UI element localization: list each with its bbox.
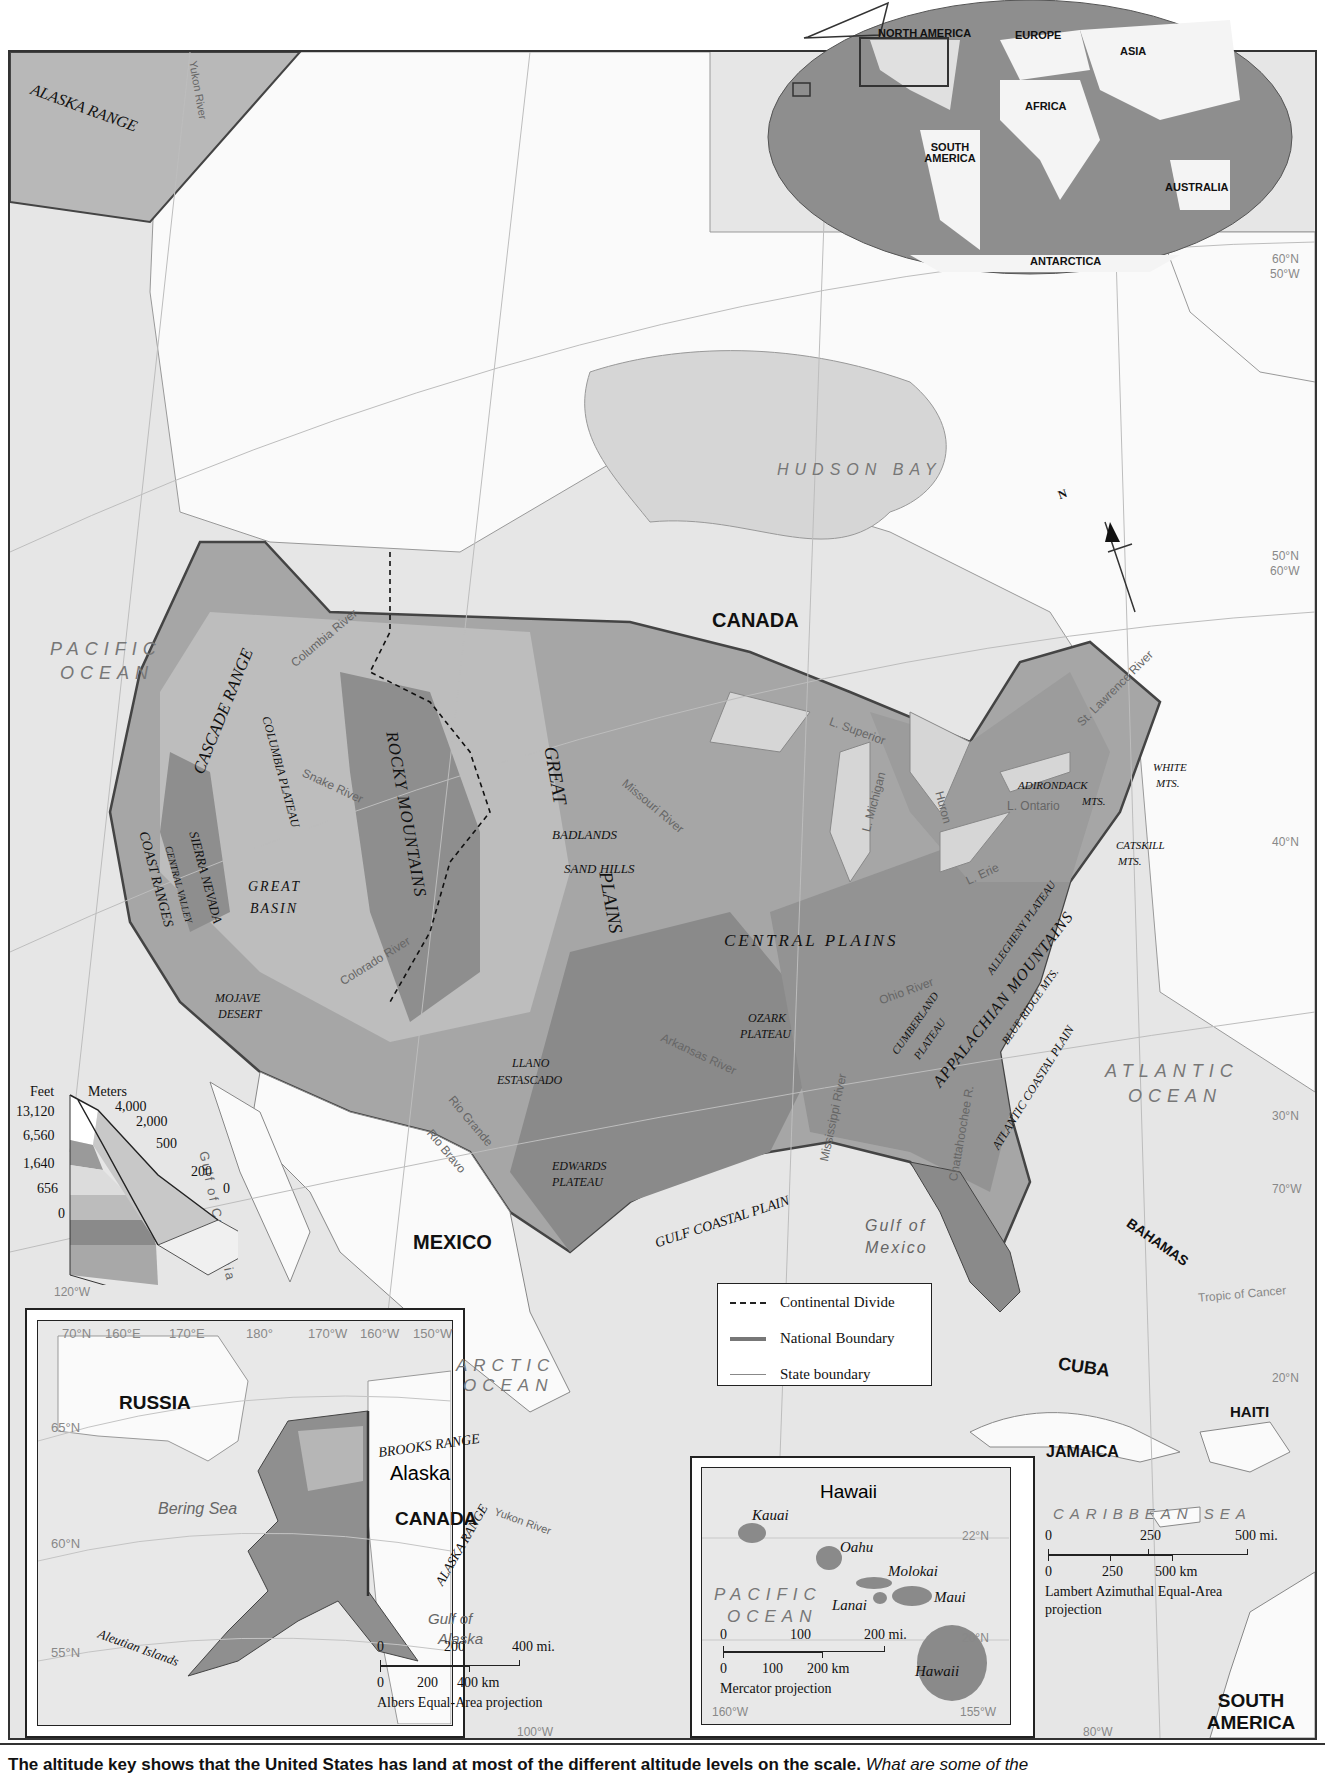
key-meters-value: 500 xyxy=(156,1137,177,1151)
grid-label: 40°N xyxy=(1272,836,1299,848)
grid-label: 60°N xyxy=(1272,253,1299,265)
dashed-line-icon xyxy=(730,1302,766,1304)
ocean-label-pacific: OCEAN xyxy=(60,664,154,682)
key-meters-value: 0 xyxy=(223,1182,230,1196)
feature-label: WHITE xyxy=(1153,762,1187,773)
continent-label: ANTARCTICA xyxy=(1030,256,1101,267)
legend-item-state-boundary: State boundary xyxy=(730,1366,870,1383)
feature-label: CENTRAL PLAINS xyxy=(724,932,898,949)
feature-label: MTS. xyxy=(1082,796,1106,807)
grid-label: 60°W xyxy=(1270,565,1299,577)
feature-label: BASIN xyxy=(250,902,298,916)
continent-label: AUSTRALIA xyxy=(1165,182,1229,193)
ocean-label-pacific: OCEAN xyxy=(727,1608,817,1625)
key-feet-value: 0 xyxy=(58,1207,65,1221)
inset-title-hawaii: Hawaii xyxy=(820,1482,877,1501)
grid-label: 20°N xyxy=(1272,1372,1299,1384)
ocean-label-arctic: OCEAN xyxy=(463,1377,553,1394)
feature-label: EDWARDS xyxy=(552,1160,606,1172)
inset-title-alaska: Alaska xyxy=(390,1463,450,1483)
country-label-mexico: MEXICO xyxy=(413,1232,492,1252)
ocean-label-arctic: ARCTIC xyxy=(456,1357,555,1374)
elevation-key: Feet Meters 13,120 6,560 1,640 656 0 4,0… xyxy=(8,1085,238,1285)
island-label: Lanai xyxy=(832,1598,867,1613)
grid-label: 50°W xyxy=(1270,268,1299,280)
feature-label: GREAT xyxy=(248,880,301,894)
island-label: Molokai xyxy=(888,1564,938,1579)
grid-label: 30°N xyxy=(1272,1110,1299,1122)
key-feet-value: 1,640 xyxy=(23,1157,55,1171)
feature-label: ESTASCADO xyxy=(497,1074,562,1086)
country-label-canada: CANADA xyxy=(712,610,799,630)
continent-label: EUROPE xyxy=(1015,30,1061,41)
key-feet-value: 656 xyxy=(37,1182,58,1196)
country-label-haiti: HAITI xyxy=(1230,1404,1269,1419)
water-label-gulf-of-mexico: Mexico xyxy=(865,1240,928,1256)
grid-label: 80°W xyxy=(1083,1726,1112,1738)
grid-label: 50°N xyxy=(1272,550,1299,562)
caption-question: What are some of the xyxy=(866,1755,1029,1774)
feature-label: DESERT xyxy=(218,1008,261,1020)
island-label: Oahu xyxy=(840,1540,873,1555)
feature-label: BADLANDS xyxy=(552,828,617,841)
physical-map: NORTH AMERICA EUROPE ASIA AFRICA SOUTH A… xyxy=(0,0,1325,1783)
feature-label: MTS. xyxy=(1156,778,1180,789)
grid-label: 120°W xyxy=(54,1286,90,1298)
lake-label: L. Ontario xyxy=(1007,800,1060,812)
island-label: Maui xyxy=(934,1590,966,1605)
water-label-caribbean: CARIBBEAN SEA xyxy=(1053,1506,1252,1521)
key-feet-header: Feet xyxy=(30,1085,54,1099)
continent-label: SOUTH AMERICA xyxy=(915,142,985,164)
figure-caption: The altitude key shows that the United S… xyxy=(0,1743,1325,1783)
map-legend: Continental Divide National Boundary Sta… xyxy=(717,1283,932,1386)
water-label-hudson-bay: HUDSON BAY xyxy=(777,462,942,478)
feature-label: MOJAVE xyxy=(215,992,260,1004)
island-label: Kauai xyxy=(752,1508,789,1523)
key-feet-value: 13,120 xyxy=(16,1105,55,1119)
continent-label: NORTH AMERICA xyxy=(878,28,971,39)
ocean-label-pacific: PACIFIC xyxy=(50,640,162,658)
sea-label-bering: Bering Sea xyxy=(158,1501,237,1517)
world-locator-inset: NORTH AMERICA EUROPE ASIA AFRICA SOUTH A… xyxy=(760,0,1300,275)
ocean-label-atlantic: ATLANTIC xyxy=(1105,1062,1239,1080)
country-label-russia: RUSSIA xyxy=(119,1393,191,1412)
main-scale-bar: 0 250 500 mi. 0 250 500 km Lambert Azimu… xyxy=(1040,1525,1270,1645)
continent-label: AFRICA xyxy=(1025,101,1067,112)
island-label: Hawaii xyxy=(915,1664,959,1679)
feature-label: OZARK xyxy=(748,1012,786,1024)
legend-item-national-boundary: National Boundary xyxy=(730,1330,895,1347)
key-meters-value: 2,000 xyxy=(136,1115,168,1129)
feature-label: PLATEAU xyxy=(740,1028,791,1040)
caption-text: The altitude key shows that the United S… xyxy=(8,1755,861,1774)
feature-label: ADIRONDACK xyxy=(1018,780,1088,791)
alaska-scale-bar: 0 200 400 mi. 0 200 400 km Albers Equal-… xyxy=(372,1640,552,1730)
grid-label: 70°W xyxy=(1272,1183,1301,1195)
continent-label: ASIA xyxy=(1120,46,1146,57)
thick-line-icon xyxy=(730,1337,766,1341)
hawaii-inset: Hawaii Kauai Oahu Molokai Maui Lanai Haw… xyxy=(701,1467,1011,1725)
legend-item-continental-divide: Continental Divide xyxy=(730,1294,895,1311)
hawaii-inset-frame: Hawaii Kauai Oahu Molokai Maui Lanai Haw… xyxy=(690,1456,1035,1738)
thin-line-icon xyxy=(730,1374,766,1375)
feature-label: PLATEAU xyxy=(552,1176,603,1188)
key-meters-header: Meters xyxy=(88,1085,127,1099)
ocean-label-atlantic: OCEAN xyxy=(1128,1087,1222,1105)
feature-label: SAND HILLS xyxy=(564,862,634,875)
gulf-of-alaska-label: Gulf of xyxy=(428,1611,472,1626)
key-meters-value: 4,000 xyxy=(115,1100,147,1114)
country-label-south-america: SOUTH AMERICA xyxy=(1196,1690,1306,1734)
feature-label: LLANO xyxy=(512,1057,549,1069)
feature-label: MTS. xyxy=(1118,856,1142,867)
ocean-label-pacific: PACIFIC xyxy=(714,1586,822,1603)
water-label-gulf-of-mexico: Gulf of xyxy=(865,1218,926,1234)
key-feet-value: 6,560 xyxy=(23,1129,55,1143)
key-meters-value: 200 xyxy=(191,1165,212,1179)
feature-label: CATSKILL xyxy=(1116,840,1165,851)
country-label-jamaica: JAMAICA xyxy=(1046,1444,1119,1460)
